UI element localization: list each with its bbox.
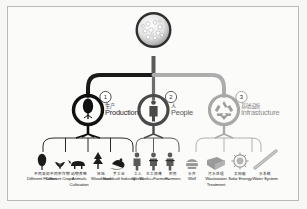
node-3-label-en: Infrastucture [241, 109, 279, 117]
well-icon [186, 159, 198, 169]
worker-icon [134, 153, 141, 171]
node-2-label-en: People [171, 109, 193, 117]
node-1-label: 生产 Production [105, 104, 138, 117]
leaf-en: Water System [248, 176, 282, 181]
crop-icon [55, 162, 65, 169]
diagram-canvas: 1 2 [0, 0, 307, 209]
tree-icon [38, 154, 46, 170]
node-1-label-en: Production [105, 109, 138, 117]
node-2-people[interactable]: 2 [136, 91, 179, 152]
waterpipe-icon [255, 151, 276, 168]
farmer-icon [166, 153, 175, 171]
leaf-label-water-system: 水系统 Water System [248, 172, 282, 182]
solar-icon [231, 153, 248, 170]
carpenter-icon [149, 153, 158, 171]
handicraft-icon [110, 159, 125, 170]
root-node-village [136, 12, 172, 48]
wastewater-icon [207, 157, 225, 170]
woodland-icon [93, 152, 103, 169]
node-1-production[interactable]: 1 [43, 91, 133, 152]
bracket-2 [136, 138, 179, 146]
recycle-icon [215, 101, 233, 120]
bracket-3 [196, 138, 261, 146]
animal-icon [68, 160, 85, 169]
node-3-label: 基础设施 Infrastucture [241, 104, 279, 117]
node-2-label: 人 People [171, 104, 193, 117]
branch-line-3 [154, 75, 225, 96]
node-3-infrastructure[interactable]: 3 [196, 91, 261, 152]
leaf-icons-row [38, 151, 276, 171]
branch-line-1 [88, 75, 154, 96]
